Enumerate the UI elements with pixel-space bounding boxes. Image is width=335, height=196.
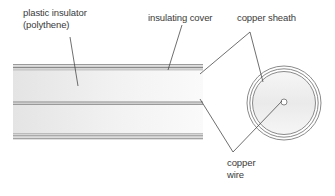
copper-wire-core [281, 99, 287, 105]
lower-insulator-fill [13, 104, 203, 134]
top-sheath-stripes [13, 64, 203, 70]
label-insulating-cover-text: insulating cover [148, 12, 212, 24]
cable-side-view [13, 64, 203, 139]
label-copper-sheath-text: copper sheath [237, 12, 296, 24]
cable-cross-section [247, 66, 321, 140]
label-copper-wire-line2: wire [227, 169, 255, 181]
label-insulating-cover: insulating cover [148, 12, 212, 24]
label-plastic-insulator-line1: plastic insulator [23, 7, 87, 19]
label-plastic-insulator-line2: (polythene) [23, 19, 87, 31]
label-plastic-insulator: plastic insulator (polythene) [23, 7, 87, 31]
label-copper-wire-line1: copper [227, 157, 255, 169]
upper-insulator-fill [13, 70, 203, 102]
bottom-sheath-stripes [13, 133, 203, 139]
leader-insulating-cover [168, 25, 182, 70]
leader-copper-sheath [200, 32, 263, 82]
center-wire-stripe [13, 102, 203, 106]
label-copper-sheath: copper sheath [237, 12, 296, 24]
label-copper-wire: copper wire [227, 157, 255, 181]
